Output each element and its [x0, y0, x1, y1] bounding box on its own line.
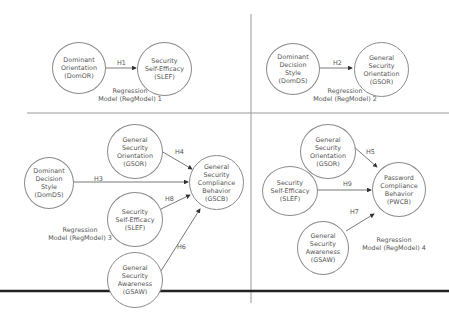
node-label: Security Self-Efficacy (SLEF) [271, 179, 310, 203]
node-label: General Security Orientation (GSOR) [363, 54, 399, 86]
node-label: Password Compliance Behavior (PWCB) [380, 174, 418, 206]
node-label: Security Self-Efficacy (SLEF) [145, 57, 184, 81]
edge-h7 [346, 214, 374, 231]
edge-label-h2: H2 [333, 59, 342, 67]
node-label: Dominant Decision Style (DomDS) [33, 167, 64, 199]
caption-model-2: Regression Model (RegModel) 2 [305, 87, 385, 103]
node-gsor: General Security Orientation (GSOR) [300, 124, 356, 179]
edge-label-h8: H8 [165, 195, 174, 203]
node-label: General Security Awareness (GSAW) [118, 264, 152, 296]
node-label: Dominant Orientation (DomOR) [61, 56, 97, 80]
node-slef: Security Self-Efficacy (SLEF) [262, 166, 318, 216]
node-label: General Security Orientation (GSOR) [117, 136, 153, 168]
node-pwcb: Password Compliance Behavior (PWCB) [372, 162, 426, 217]
edge-label-h4: H4 [175, 148, 184, 156]
edge-label-h9: H9 [343, 180, 352, 188]
caption-model-3: Regression Model (RegModel) 3 [40, 226, 120, 242]
edge-label-h3: H3 [94, 175, 103, 183]
caption-model-4: Regression Model (RegModel) 4 [354, 236, 434, 252]
edge-h6 [161, 209, 200, 271]
node-gsaw: General Security Awareness (GSAW) [297, 221, 349, 275]
edge-label-h5: H5 [366, 148, 375, 156]
node-gscb: General Security Compliance Behavior (GS… [189, 155, 244, 210]
node-domds: Dominant Decision Style (DomDS) [24, 157, 74, 209]
node-label: General Security Compliance Behavior (GS… [198, 163, 236, 203]
edge-label-h1: H1 [117, 59, 126, 67]
node-label: General Security Awareness (GSAW) [306, 232, 340, 264]
caption-model-1: Regression Model (RegModel) 1 [90, 87, 170, 103]
node-label: Security Self-Efficacy (SLEF) [116, 208, 155, 232]
edge-label-h7: H7 [350, 208, 359, 216]
node-label: General Security Orientation (GSOR) [310, 136, 346, 168]
node-gsor: General Security Orientation (GSOR) [107, 124, 163, 179]
edge-label-h6: H6 [177, 243, 186, 251]
node-gsaw: General Security Awareness (GSAW) [107, 252, 163, 308]
node-label: Dominant Decision Style (DomDS) [277, 53, 308, 85]
